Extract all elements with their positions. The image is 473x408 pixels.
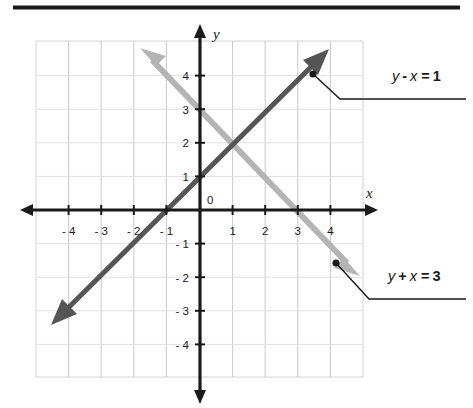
x-tick-label: 2 <box>262 225 268 237</box>
line1-var-y: y <box>391 68 400 84</box>
y-tick-label: - 2 <box>176 272 189 284</box>
x-tick-label: 3 <box>295 225 301 237</box>
line1-var-x: x <box>409 68 418 84</box>
y-tick-label: - 3 <box>176 305 189 317</box>
line2-rhs: 3 <box>432 268 440 284</box>
x-tick-label: - 1 <box>160 225 173 237</box>
line2-var-y: y <box>387 268 396 284</box>
x-tick-label: 1 <box>229 225 235 237</box>
top-divider <box>13 6 460 10</box>
line1-equals: = <box>421 68 429 84</box>
y-tick-label: 3 <box>183 104 189 116</box>
line1-rhs: 1 <box>433 68 441 84</box>
y-tick-label: - 1 <box>176 238 189 250</box>
line2-var-x: x <box>409 268 418 284</box>
y-tick-label: 1 <box>183 171 189 183</box>
x-tick-label: - 2 <box>127 225 140 237</box>
y-tick-label: 2 <box>183 137 189 149</box>
y-axis-label: y <box>211 26 220 42</box>
line1-operator: - <box>402 68 407 84</box>
y-tick-label: - 4 <box>176 339 190 351</box>
coordinate-graph-figure: - 4 - 3 - 2 - 1 1 2 3 4 4 3 2 1 - 1 - 2 … <box>0 0 473 408</box>
line2-operator: + <box>398 268 406 284</box>
x-axis-label: x <box>365 185 373 201</box>
origin-label: 0 <box>207 194 213 206</box>
x-tick-label: - 3 <box>94 225 107 237</box>
figure-background <box>0 0 473 408</box>
line2-equation-label: y+x=3 <box>387 268 441 284</box>
y-tick-label: 4 <box>183 70 190 82</box>
x-tick-label: - 4 <box>62 225 76 237</box>
x-tick-label: 4 <box>327 225 334 237</box>
line1-equation-label: y-x=1 <box>391 68 441 84</box>
line2-equals: = <box>421 268 429 284</box>
